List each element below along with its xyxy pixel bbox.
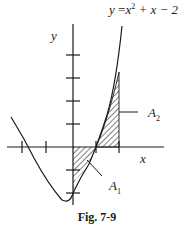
eq-lhs: y [109,2,115,17]
parabola-curve [11,26,122,201]
equation-label: y =x2 + x − 2 [109,3,178,16]
a1-label: A1 [109,179,121,196]
parabola-figure [0,0,194,231]
a2-label: A2 [148,106,160,123]
figure-caption: Fig. 7-9 [0,210,194,225]
x-axis-label: x [140,152,146,165]
eq-rest: + x − 2 [138,2,178,17]
y-axis-label: y [51,29,57,42]
a2-subscript: 2 [156,114,160,123]
eq-exponent: 2 [131,2,135,11]
a1-letter: A [109,178,117,193]
a1-leader-line [87,160,102,176]
a1-subscript: 1 [117,187,121,196]
a2-letter: A [148,105,156,120]
